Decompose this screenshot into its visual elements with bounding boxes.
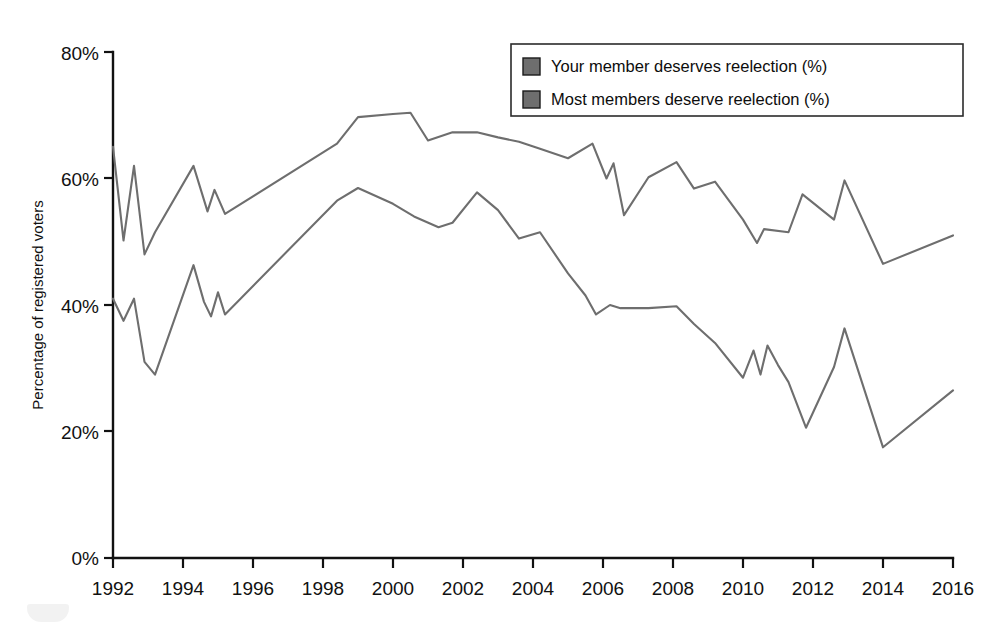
x-tick-label-2012: 2012	[792, 578, 834, 599]
legend-label-your-member: Your member deserves reelection (%)	[551, 57, 827, 75]
x-tick-label-1994: 1994	[162, 578, 205, 599]
line-chart: Percentage of registered voters 80% 60% …	[0, 0, 992, 622]
x-tick-label-2004: 2004	[512, 578, 555, 599]
y-axis-title: Percentage of registered voters	[29, 200, 46, 409]
y-tick-label-40: 40%	[61, 296, 99, 317]
x-tick-label-2014: 2014	[862, 578, 905, 599]
x-tick-label-2000: 2000	[372, 578, 414, 599]
x-tick-label-1996: 1996	[232, 578, 274, 599]
x-axis-ticks	[113, 558, 953, 568]
series-line-most-members	[113, 188, 953, 447]
y-axis-ticks	[104, 52, 113, 558]
chart-legend: Your member deserves reelection (%) Most…	[511, 44, 963, 116]
series-line-your-member	[113, 113, 953, 264]
series-group	[113, 113, 953, 448]
legend-swatch-most-members	[523, 91, 540, 108]
y-tick-label-20: 20%	[61, 422, 99, 443]
y-tick-label-60: 60%	[61, 169, 99, 190]
x-tick-label-2008: 2008	[652, 578, 694, 599]
x-tick-label-1992: 1992	[92, 578, 134, 599]
x-tick-label-2006: 2006	[582, 578, 624, 599]
y-tick-label-80: 80%	[61, 43, 99, 64]
x-tick-label-2010: 2010	[722, 578, 764, 599]
x-axis-tick-labels: 1992 1994 1996 1998 2000 2002 2004 2006 …	[92, 578, 974, 599]
x-tick-label-1998: 1998	[302, 578, 344, 599]
legend-swatch-your-member	[523, 58, 540, 75]
y-axis-tick-labels: 80% 60% 40% 20% 0%	[61, 43, 99, 569]
y-tick-label-0: 0%	[72, 548, 100, 569]
x-tick-label-2016: 2016	[932, 578, 974, 599]
chart-container: Percentage of registered voters 80% 60% …	[0, 0, 992, 622]
page-corner-artifact	[27, 604, 69, 622]
legend-label-most-members: Most members deserve reelection (%)	[551, 90, 830, 108]
x-tick-label-2002: 2002	[442, 578, 484, 599]
